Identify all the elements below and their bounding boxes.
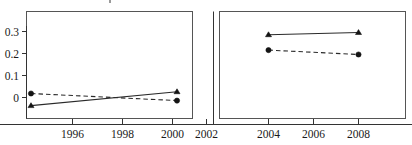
x-tick-label-2002: 2002 [195, 128, 218, 140]
left-circle-marker-start [28, 91, 33, 96]
y-tick-label-0-3: 0.3 [5, 26, 20, 38]
x-tick-label-1996: 1996 [61, 128, 84, 140]
y-tick-label-0-2: 0.2 [5, 48, 20, 60]
right-dashed-circle-line [269, 50, 359, 54]
left-solid-triangle-line [31, 92, 177, 106]
right-circle-marker-2008 [356, 52, 361, 57]
left-panel-series [28, 89, 180, 108]
x-tick-label-2006: 2006 [302, 128, 325, 140]
left-triangle-marker-end [174, 89, 180, 94]
x-tick-label-2008: 2008 [347, 128, 370, 140]
x-tick-label-2000: 2000 [161, 128, 184, 140]
left-circle-marker-end [174, 98, 179, 103]
y-tick-label-0: 0 [13, 92, 19, 104]
right-panel-series [266, 30, 362, 58]
y-tick-label-0-1: 0.1 [5, 70, 20, 82]
right-panel-frame [220, 12, 406, 119]
right-solid-triangle-line [269, 33, 359, 35]
chart-figure: 0.3 0.2 0.1 0 1996 1998 2000 2002 2004 2… [0, 0, 412, 145]
y-tick-marks [22, 32, 27, 98]
x-tick-label-1998: 1998 [111, 128, 134, 140]
right-circle-marker-2004 [266, 48, 271, 53]
left-dashed-circle-line [31, 94, 177, 101]
x-tick-marks-right [269, 119, 359, 125]
left-panel-frame [27, 12, 193, 119]
cropped-title-artifact [109, 0, 111, 3]
two-panel-line-chart: 0.3 0.2 0.1 0 1996 1998 2000 2002 2004 2… [0, 0, 412, 145]
x-tick-label-2004: 2004 [257, 128, 280, 140]
x-tick-marks-left [73, 119, 207, 125]
